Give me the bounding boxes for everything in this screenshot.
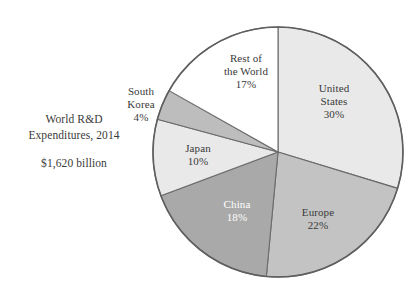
slice-label-japan: Japan 10%: [185, 142, 211, 167]
pie-chart-figure: World R&D Expenditures, 2014 $1,620 bill…: [0, 0, 418, 297]
slice-label-south-korea: South Korea 4%: [127, 85, 154, 123]
slice-label-china-line1: China: [224, 198, 251, 210]
slice-label-united-states-line1: United: [319, 82, 350, 94]
slice-label-europe-line2: 22%: [308, 219, 328, 231]
slice-label-japan-line2: 10%: [188, 155, 208, 167]
slice-label-china: China 18%: [224, 198, 251, 223]
slice-label-rest-of-world-line3: 17%: [236, 78, 256, 90]
pie-chart-svg: United States 30% Europe 22% China 18% J…: [0, 0, 418, 297]
slice-label-south-korea-line1: South: [128, 85, 155, 97]
slice-label-united-states-line2: States: [321, 95, 348, 107]
slice-label-europe-line1: Europe: [302, 206, 334, 218]
slice-label-south-korea-line3: 4%: [134, 111, 149, 123]
slice-label-rest-of-world-line2: the World: [224, 65, 269, 77]
slice-label-japan-line1: Japan: [185, 142, 211, 154]
slice-label-united-states-line3: 30%: [324, 108, 344, 120]
slice-label-south-korea-line2: Korea: [127, 98, 154, 110]
slice-label-rest-of-world-line1: Rest of: [230, 52, 262, 64]
slice-label-china-line2: 18%: [227, 211, 247, 223]
